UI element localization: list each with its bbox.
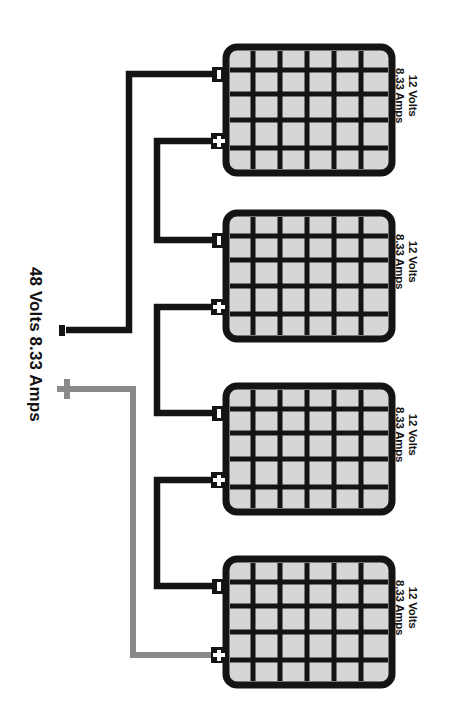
battery-3-rating-label: 12 Volts 8.33 Amps: [394, 407, 419, 462]
diagram-canvas: 48 Volts 8.33 Amps 12 Volts 8.33 Amps 12…: [0, 0, 459, 724]
source-negative-glyph: [59, 325, 65, 336]
battery-2-rating-label: 12 Volts 8.33 Amps: [394, 234, 419, 289]
battery-4-amps: 8.33 Amps: [394, 580, 407, 635]
battery-2-volts: 12 Volts: [407, 234, 420, 289]
battery-4-volts: 12 Volts: [407, 580, 420, 635]
battery-2-amps: 8.33 Amps: [394, 234, 407, 289]
battery-3-volts: 12 Volts: [407, 407, 420, 462]
source-terminals-layer: [0, 0, 459, 724]
battery-3-amps: 8.33 Amps: [394, 407, 407, 462]
battery-4-rating-label: 12 Volts 8.33 Amps: [394, 580, 419, 635]
battery-1-amps: 8.33 Amps: [394, 68, 407, 123]
system-total-label: 48 Volts 8.33 Amps: [25, 267, 45, 422]
source-positive-glyph: [57, 379, 77, 399]
battery-1-volts: 12 Volts: [407, 68, 420, 123]
battery-1-rating-label: 12 Volts 8.33 Amps: [394, 68, 419, 123]
